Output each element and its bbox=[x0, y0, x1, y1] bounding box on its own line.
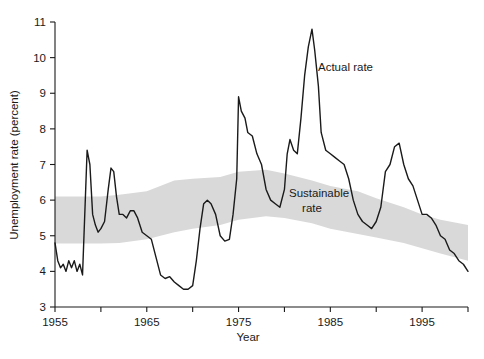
y-axis-tick-label: 5 bbox=[40, 230, 46, 242]
y-axis-title: Unemployment rate (percent) bbox=[8, 90, 20, 240]
sustainable-rate-annotation-line2: rate bbox=[302, 202, 322, 214]
chart-figure: 3456789101119551965197519851995 Unemploy… bbox=[0, 0, 484, 359]
y-axis-tick-label: 9 bbox=[40, 87, 46, 99]
y-axis-tick-label: 4 bbox=[40, 265, 47, 277]
x-axis-title: Year bbox=[236, 331, 259, 343]
y-axis-tick-label: 10 bbox=[33, 52, 46, 64]
y-axis-tick-label: 3 bbox=[40, 301, 46, 313]
unemployment-rate-chart: 3456789101119551965197519851995 Unemploy… bbox=[0, 0, 484, 359]
y-axis-tick-label: 7 bbox=[40, 159, 46, 171]
sustainable-rate-annotation-line1: Sustainable bbox=[289, 187, 349, 199]
y-axis-tick-label: 8 bbox=[40, 123, 46, 135]
actual-rate-annotation: Actual rate bbox=[318, 61, 373, 73]
y-axis-tick-label: 11 bbox=[34, 16, 46, 28]
y-axis-tick-label: 6 bbox=[40, 194, 46, 206]
x-axis-tick-label: 1975 bbox=[226, 316, 252, 328]
x-axis-tick-label: 1955 bbox=[42, 316, 68, 328]
x-axis-tick-label: 1965 bbox=[134, 316, 160, 328]
x-axis-tick-label: 1995 bbox=[409, 316, 435, 328]
x-axis-tick-label: 1985 bbox=[318, 316, 344, 328]
